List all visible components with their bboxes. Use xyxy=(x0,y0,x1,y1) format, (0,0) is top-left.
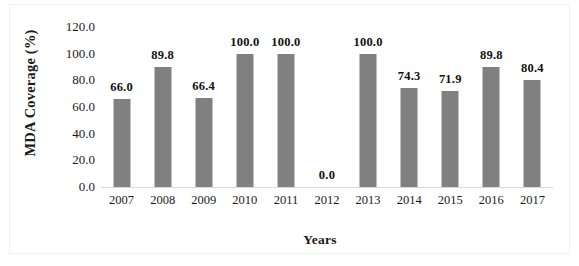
x-axis-tick-label: 2011 xyxy=(274,193,299,208)
x-axis-tick-label: 2009 xyxy=(191,193,216,208)
bar-value-label: 100.0 xyxy=(230,35,259,50)
bar-value-label: 89.8 xyxy=(151,48,174,63)
bar-slot: 66.4 xyxy=(183,27,224,187)
bar[interactable] xyxy=(483,67,500,187)
bar-slot: 100.0 xyxy=(265,27,306,187)
bar-value-label: 100.0 xyxy=(354,35,383,50)
bar-value-label: 66.4 xyxy=(192,79,215,94)
bar-value-label: 71.9 xyxy=(439,72,462,87)
bar-slot: 71.9 xyxy=(430,27,471,187)
y-axis-tick-label: 120.0 xyxy=(40,19,95,35)
bar-slot: 80.4 xyxy=(512,27,553,187)
y-axis-tick-label: 100.0 xyxy=(40,46,95,62)
bar-slot: 89.8 xyxy=(142,27,183,187)
x-axis-tick-label: 2017 xyxy=(520,193,545,208)
bar[interactable] xyxy=(360,54,377,187)
x-axis-tick-label: 2013 xyxy=(356,193,381,208)
x-axis-tick-label: 2007 xyxy=(109,193,134,208)
y-axis-tick-label: 20.0 xyxy=(40,152,95,168)
y-axis-tick-labels: 120.0100.080.060.040.020.00.0 xyxy=(40,0,95,266)
plot-area: 66.089.866.4100.0100.00.0100.074.371.989… xyxy=(101,27,553,187)
bar[interactable] xyxy=(524,80,541,187)
bar-slot: 100.0 xyxy=(224,27,265,187)
y-axis-tick-label: 40.0 xyxy=(40,126,95,142)
x-axis-tick-label: 2012 xyxy=(315,193,340,208)
x-axis-tick-label: 2008 xyxy=(150,193,175,208)
x-axis-tick-label: 2015 xyxy=(438,193,463,208)
x-axis-line xyxy=(101,187,553,188)
bar-slot: 0.0 xyxy=(306,27,347,187)
x-axis-tick-label: 2016 xyxy=(479,193,504,208)
bar[interactable] xyxy=(113,99,130,187)
x-axis-title: Years xyxy=(100,232,540,248)
bar-slot: 66.0 xyxy=(101,27,142,187)
bar-value-label: 0.0 xyxy=(319,168,335,183)
bar[interactable] xyxy=(236,54,253,187)
y-axis-tick-label: 0.0 xyxy=(40,179,95,195)
y-axis-tick-label: 60.0 xyxy=(40,99,95,115)
bar[interactable] xyxy=(154,67,171,187)
bar-slot: 74.3 xyxy=(389,27,430,187)
bar[interactable] xyxy=(277,54,294,187)
chart-figure: MDA Coverage (%) 120.0100.080.060.040.02… xyxy=(0,0,579,266)
bar-value-label: 80.4 xyxy=(521,61,544,76)
bar-value-label: 100.0 xyxy=(271,35,300,50)
bar[interactable] xyxy=(195,98,212,187)
bar[interactable] xyxy=(442,91,459,187)
bar-value-label: 74.3 xyxy=(398,69,421,84)
bar-value-label: 89.8 xyxy=(480,48,503,63)
bar-slot: 89.8 xyxy=(471,27,512,187)
bar-slot: 100.0 xyxy=(348,27,389,187)
y-axis-tick-label: 80.0 xyxy=(40,72,95,88)
bar[interactable] xyxy=(401,88,418,187)
x-axis-tick-label: 2010 xyxy=(232,193,257,208)
bar-value-label: 66.0 xyxy=(110,80,133,95)
x-axis-tick-labels: 2007200820092010201120122013201420152016… xyxy=(101,193,553,213)
x-axis-tick-label: 2014 xyxy=(397,193,422,208)
